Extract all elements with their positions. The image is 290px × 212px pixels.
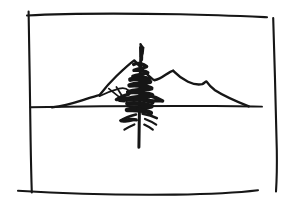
frame-top-edge [27,14,267,18]
tree-branch-right-upper [148,96,163,101]
tree-twig-left-a [124,124,134,129]
sketch-svg [0,0,290,212]
conifer-tree [116,43,162,147]
tree-twig-right-a [145,119,156,125]
mountain-right-ridge [173,71,249,107]
frame-right-edge [273,18,277,192]
frame-left-edge [29,12,32,193]
frame-bottom-edge [18,190,258,195]
sketch-canvas [0,0,290,212]
tree-twig-right-b [144,125,153,130]
tree-branch-right-lower [143,114,157,118]
